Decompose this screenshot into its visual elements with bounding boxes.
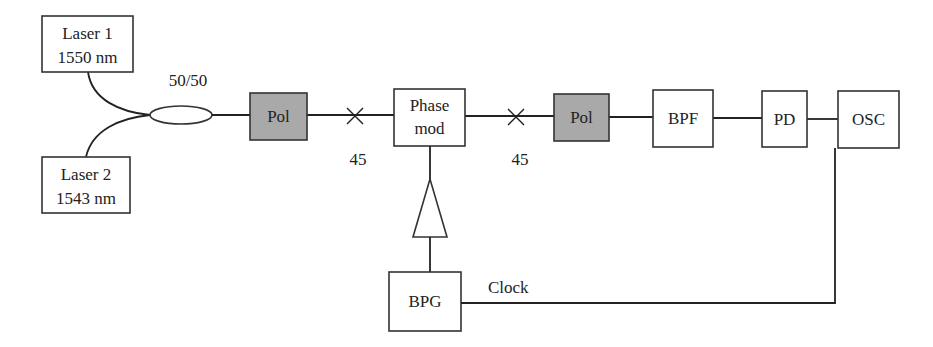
svg-text:BPG: BPG	[408, 292, 441, 311]
svg-text:1550 nm: 1550 nm	[58, 48, 118, 67]
laser1-box: Laser 1 1550 nm	[42, 16, 133, 72]
svg-text:PD: PD	[774, 110, 796, 129]
svg-text:Laser 2: Laser 2	[61, 165, 112, 184]
polarizer-1: Pol	[250, 93, 307, 140]
splice-45-1	[347, 108, 363, 124]
photodetector-box: PD	[762, 91, 807, 147]
amplifier-triangle-icon	[413, 179, 447, 237]
svg-text:Pol: Pol	[570, 108, 593, 127]
angle-label-2: 45	[512, 150, 529, 169]
bit-pattern-generator-box: BPG	[389, 272, 461, 331]
svg-text:1543 nm: 1543 nm	[56, 189, 116, 208]
laser2-box: Laser 2 1543 nm	[42, 157, 130, 213]
splice-45-2	[508, 109, 524, 125]
svg-text:Pol: Pol	[267, 107, 290, 126]
angle-label-1: 45	[350, 150, 367, 169]
svg-text:mod: mod	[414, 119, 445, 138]
optical-setup-diagram: 50/50 Laser 1 1550 nm Laser 2 1543 nm Po…	[0, 0, 933, 347]
svg-text:OSC: OSC	[852, 110, 885, 129]
oscilloscope-box: OSC	[838, 91, 899, 148]
fiber-laser2	[86, 115, 150, 157]
svg-text:Phase: Phase	[410, 96, 450, 115]
bandpass-filter-box: BPF	[653, 90, 713, 147]
clock-label: Clock	[488, 278, 529, 297]
svg-text:Laser 1: Laser 1	[62, 24, 113, 43]
coupler-50-50	[150, 106, 212, 124]
coupler-label: 50/50	[169, 71, 208, 90]
svg-text:BPF: BPF	[668, 109, 698, 128]
fiber-laser1	[88, 72, 150, 115]
polarizer-2: Pol	[554, 94, 609, 141]
phase-modulator-box: Phase mod	[394, 89, 465, 146]
